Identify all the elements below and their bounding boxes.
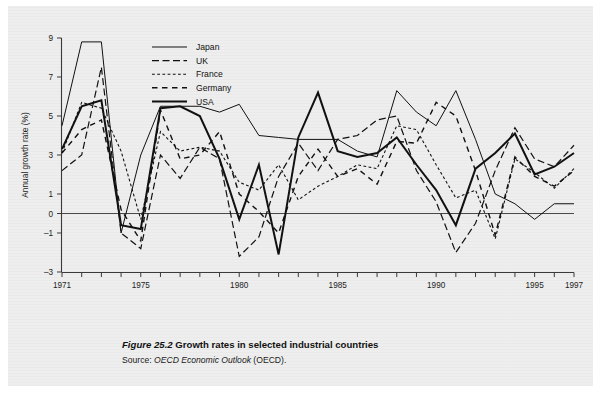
caption-text: Growth rates in selected industrial coun… xyxy=(175,339,378,350)
source-line: Source: OECD Economic Outlook (OECD). xyxy=(122,354,562,367)
y-tick-label: 3 xyxy=(48,151,53,160)
legend-label-germany: Germany xyxy=(196,83,232,93)
series-line-usa xyxy=(62,93,574,255)
y-axis-label: Annual growth rate (%) xyxy=(20,112,30,198)
legend-label-japan: Japan xyxy=(196,42,220,52)
legend-label-france: France xyxy=(196,69,223,79)
series-lines xyxy=(62,42,574,257)
y-tick-label: 7 xyxy=(48,73,53,82)
x-axis-ticks: 1971197519801985199019951997 xyxy=(53,273,584,291)
x-tick-label: 1971 xyxy=(53,281,72,290)
source-title: OECD Economic Outlook xyxy=(154,355,251,365)
y-tick-label: 9 xyxy=(48,34,53,43)
y-tick-label: –1 xyxy=(44,229,54,238)
x-tick-label: 1985 xyxy=(329,281,348,290)
x-tick-label: 1980 xyxy=(230,281,249,290)
x-tick-label: 1990 xyxy=(427,281,446,290)
x-tick-label: 1995 xyxy=(526,281,545,290)
source-suffix: (OECD). xyxy=(253,355,286,365)
y-axis-title: Annual growth rate (%) xyxy=(20,112,30,198)
source-prefix: Source: xyxy=(122,355,152,365)
caption-line: Figure 25.2 Growth rates in selected ind… xyxy=(122,338,562,351)
y-tick-label: –3 xyxy=(44,268,54,277)
x-tick-label: 1975 xyxy=(132,281,151,290)
figure-number: Figure 25.2 xyxy=(122,339,173,350)
y-axis-ticks: –3–1013579 xyxy=(44,34,62,277)
figure-caption: Figure 25.2 Growth rates in selected ind… xyxy=(122,338,562,367)
y-tick-label: 0 xyxy=(48,210,53,219)
y-tick-label: 1 xyxy=(48,190,53,199)
legend-label-uk: UK xyxy=(196,56,208,66)
chart-legend: JapanUKFranceGermanyUSA xyxy=(152,42,232,106)
figure-page: –3–1013579 1971197519801985199019951997 … xyxy=(0,0,609,403)
series-line-japan xyxy=(62,42,574,233)
legend-label-usa: USA xyxy=(196,97,214,107)
axes-group xyxy=(62,38,575,273)
y-tick-label: 5 xyxy=(48,112,53,121)
x-tick-label: 1997 xyxy=(565,281,584,290)
